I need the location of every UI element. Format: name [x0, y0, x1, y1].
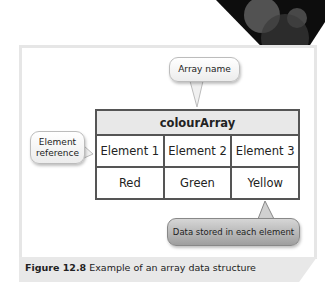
element-ref-cell: Element 3 — [231, 135, 299, 167]
element-value-cell: Green — [164, 167, 232, 199]
array-name-callout-text: Array name — [178, 64, 231, 75]
element-ref-cell: Element 2 — [164, 135, 232, 167]
data-stored-callout-text: Data stored in each element — [173, 227, 294, 238]
figure-caption: Figure 12.8 Example of an array data str… — [19, 257, 317, 282]
element-ref-cell: Element 1 — [96, 135, 164, 167]
element-reference-callout: Element reference — [30, 131, 85, 164]
data-stored-callout: Data stored in each element — [167, 218, 300, 246]
figure-number: Figure 12.8 — [25, 262, 86, 273]
element-reference-callout-text: Element reference — [31, 137, 84, 159]
array-name-callout: Array name — [169, 57, 240, 82]
array-table: colourArray Element 1 Element 2 Element … — [95, 109, 300, 200]
element-value-cell: Red — [96, 167, 164, 199]
element-value-cell: Yellow — [231, 167, 299, 199]
array-name-cell: colourArray — [96, 110, 299, 135]
figure-caption-text: Example of an array data structure — [89, 262, 256, 273]
